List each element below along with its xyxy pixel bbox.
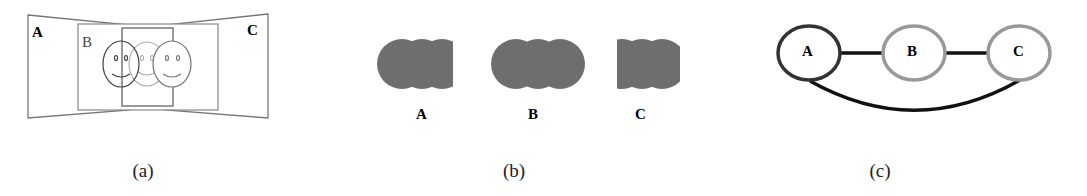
- caption-c: (c): [869, 160, 890, 182]
- blob-b-label: B: [528, 106, 538, 123]
- view-b-label: B: [82, 34, 92, 51]
- view-b-frame: [78, 24, 218, 110]
- panel-a: A B C: [0, 0, 300, 154]
- region-blobs: [360, 0, 680, 150]
- adjacency-graph: [770, 0, 1080, 150]
- node-c-label: C: [1013, 43, 1024, 60]
- blob-b: [491, 39, 585, 89]
- blob-a-label: A: [416, 106, 427, 123]
- node-a-label: A: [802, 43, 813, 60]
- node-b-label: B: [907, 43, 917, 60]
- view-c-label: C: [247, 22, 258, 39]
- blob-a: [377, 39, 467, 89]
- panel-c: A B C: [770, 0, 1080, 154]
- blob-c-label: C: [635, 106, 646, 123]
- caption-a: (a): [132, 160, 153, 182]
- blob-c: [597, 39, 680, 89]
- edge-a-c: [810, 80, 1020, 110]
- smiley-face-right-icon: [153, 41, 191, 87]
- panel-b: A B C: [360, 0, 680, 154]
- view-a-label: A: [32, 24, 43, 41]
- caption-b: (b): [503, 160, 525, 182]
